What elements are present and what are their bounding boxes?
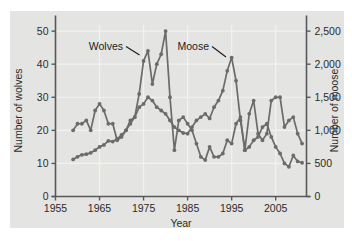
data-point-moose bbox=[93, 148, 97, 152]
data-point-wolves bbox=[164, 29, 168, 33]
data-point-wolves bbox=[283, 125, 287, 129]
x-axis-tick-label: 1995 bbox=[220, 202, 244, 214]
annotation-label-moose: Moose bbox=[177, 40, 209, 52]
y-axis-left-tick-label: 30 bbox=[37, 91, 49, 103]
y-axis-right-tick-label: 0 bbox=[315, 190, 321, 202]
y-axis-right-title: Number of moose bbox=[328, 69, 340, 153]
data-point-moose bbox=[146, 95, 150, 99]
x-axis-tick-label: 2005 bbox=[264, 202, 288, 214]
wolves-moose-line-chart: 0102030405005001,0001,5002,0002,50019551… bbox=[0, 0, 352, 241]
data-point-moose bbox=[186, 132, 190, 136]
data-point-moose bbox=[278, 152, 282, 156]
data-point-moose bbox=[195, 119, 199, 123]
data-point-moose bbox=[172, 125, 176, 129]
data-point-moose bbox=[89, 151, 93, 155]
x-axis-title: Year bbox=[170, 217, 192, 229]
data-point-moose bbox=[190, 125, 194, 129]
y-axis-right-tick-label: 500 bbox=[315, 157, 333, 169]
data-point-moose bbox=[252, 138, 256, 142]
data-point-wolves bbox=[186, 122, 190, 126]
y-axis-left-tick-label: 10 bbox=[37, 157, 49, 169]
data-point-moose bbox=[261, 125, 265, 129]
data-point-wolves bbox=[195, 142, 199, 146]
data-point-moose bbox=[102, 143, 106, 147]
data-point-moose bbox=[159, 109, 163, 113]
data-point-wolves bbox=[102, 109, 106, 113]
data-point-wolves bbox=[106, 122, 110, 126]
x-axis-tick-label: 1955 bbox=[44, 202, 68, 214]
data-point-moose bbox=[230, 56, 234, 60]
data-point-moose bbox=[150, 99, 154, 103]
x-axis-tick-label: 1985 bbox=[176, 202, 200, 214]
data-point-moose bbox=[168, 119, 172, 123]
data-point-moose bbox=[133, 115, 137, 119]
y-axis-left-tick-label: 50 bbox=[37, 25, 49, 37]
data-point-moose bbox=[283, 162, 287, 166]
data-point-moose bbox=[80, 153, 84, 157]
data-point-moose bbox=[256, 135, 260, 139]
data-point-wolves bbox=[146, 49, 150, 53]
data-point-moose bbox=[181, 131, 185, 135]
data-point-wolves bbox=[278, 95, 282, 99]
data-point-moose bbox=[217, 99, 221, 103]
data-point-moose bbox=[71, 158, 75, 162]
annotation-label-wolves: Wolves bbox=[89, 40, 123, 52]
data-point-moose bbox=[177, 128, 181, 132]
data-point-wolves bbox=[217, 155, 221, 159]
data-point-wolves bbox=[203, 158, 207, 162]
data-point-wolves bbox=[181, 115, 185, 119]
data-point-moose bbox=[142, 102, 146, 106]
data-point-wolves bbox=[212, 155, 216, 159]
data-point-moose bbox=[208, 117, 212, 121]
data-point-wolves bbox=[261, 138, 265, 142]
data-point-wolves bbox=[208, 145, 212, 149]
y-axis-left-tick-label: 20 bbox=[37, 124, 49, 136]
data-point-wolves bbox=[199, 155, 203, 159]
data-point-wolves bbox=[225, 138, 229, 142]
annotation-leader-line bbox=[126, 47, 140, 56]
data-point-wolves bbox=[80, 122, 84, 126]
annotation-leader-line bbox=[212, 47, 226, 58]
data-point-wolves bbox=[84, 119, 88, 123]
data-point-wolves bbox=[287, 119, 291, 123]
y-axis-left-title: Number of wolves bbox=[12, 68, 24, 152]
data-point-wolves bbox=[265, 132, 269, 136]
data-point-moose bbox=[115, 137, 119, 141]
data-point-wolves bbox=[71, 128, 75, 132]
data-point-wolves bbox=[252, 99, 256, 103]
data-point-moose bbox=[300, 161, 304, 165]
data-point-moose bbox=[164, 112, 168, 116]
x-axis-tick-label: 1975 bbox=[132, 202, 156, 214]
y-axis-left-tick-label: 40 bbox=[37, 58, 49, 70]
data-point-moose bbox=[296, 160, 300, 164]
data-point-wolves bbox=[234, 122, 238, 126]
data-point-moose bbox=[199, 115, 203, 119]
data-point-moose bbox=[84, 152, 88, 156]
data-point-moose bbox=[225, 69, 229, 73]
data-point-wolves bbox=[155, 62, 159, 66]
data-point-wolves bbox=[150, 82, 154, 86]
y-axis-right-tick-label: 2,000 bbox=[315, 58, 341, 70]
data-point-moose bbox=[212, 105, 216, 109]
data-point-wolves bbox=[93, 109, 97, 113]
data-point-wolves bbox=[247, 112, 251, 116]
data-point-moose bbox=[274, 145, 278, 149]
data-point-wolves bbox=[159, 52, 163, 56]
data-point-moose bbox=[120, 133, 124, 137]
data-point-wolves bbox=[111, 122, 115, 126]
data-point-moose bbox=[106, 139, 110, 143]
data-point-wolves bbox=[230, 142, 234, 146]
data-point-wolves bbox=[291, 115, 295, 119]
data-point-moose bbox=[234, 79, 238, 83]
data-point-moose bbox=[155, 105, 159, 109]
x-axis-tick-label: 1965 bbox=[88, 202, 112, 214]
data-point-moose bbox=[128, 122, 132, 126]
data-point-wolves bbox=[269, 99, 273, 103]
data-point-moose bbox=[291, 154, 295, 158]
data-point-moose bbox=[269, 135, 273, 139]
y-axis-right-tick-label: 2,500 bbox=[315, 25, 341, 37]
data-point-wolves bbox=[300, 142, 304, 146]
data-point-moose bbox=[239, 119, 243, 123]
data-point-wolves bbox=[177, 119, 181, 123]
data-point-wolves bbox=[296, 132, 300, 136]
